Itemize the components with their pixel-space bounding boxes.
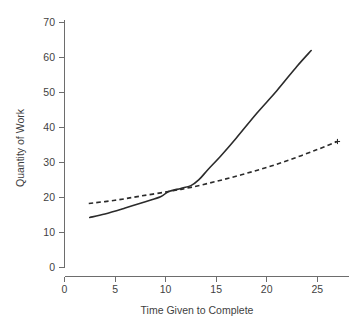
y-axis-title: Quantity of Work <box>14 108 26 187</box>
y-axis-tick-labels: 70 60 50 40 30 20 10 0 <box>43 16 55 273</box>
x-tick-label-20: 20 <box>261 283 273 295</box>
y-tick-label-50: 50 <box>43 86 55 98</box>
x-tick-label-15: 15 <box>210 283 222 295</box>
x-axis-tick-labels: 0 5 10 15 20 25 <box>62 283 324 295</box>
y-tick-label-0: 0 <box>49 261 55 273</box>
y-axis-ticks <box>59 23 65 268</box>
dashed-end-marker-icon <box>335 139 340 144</box>
y-tick-label-10: 10 <box>43 226 55 238</box>
y-tick-label-40: 40 <box>43 121 55 133</box>
x-axis-title: Time Given to Complete <box>141 304 254 316</box>
solid-curve <box>90 51 311 218</box>
y-tick-label-60: 60 <box>43 51 55 63</box>
y-tick-label-20: 20 <box>43 191 55 203</box>
chart-canvas: 70 60 50 40 30 20 10 0 Quantity of Work <box>0 0 355 324</box>
x-axis: 0 5 10 15 20 25 Time Given to Complete <box>62 277 349 317</box>
x-axis-ticks <box>65 277 318 283</box>
x-tick-label-10: 10 <box>160 283 172 295</box>
line-chart: 70 60 50 40 30 20 10 0 Quantity of Work <box>0 0 355 324</box>
y-tick-label-70: 70 <box>43 16 55 28</box>
x-tick-label-25: 25 <box>311 283 323 295</box>
series-group <box>89 51 340 218</box>
x-tick-label-5: 5 <box>112 283 118 295</box>
x-tick-label-0: 0 <box>62 283 68 295</box>
y-tick-label-30: 30 <box>43 156 55 168</box>
y-axis: 70 60 50 40 30 20 10 0 Quantity of Work <box>14 16 65 273</box>
dashed-curve <box>89 142 338 204</box>
